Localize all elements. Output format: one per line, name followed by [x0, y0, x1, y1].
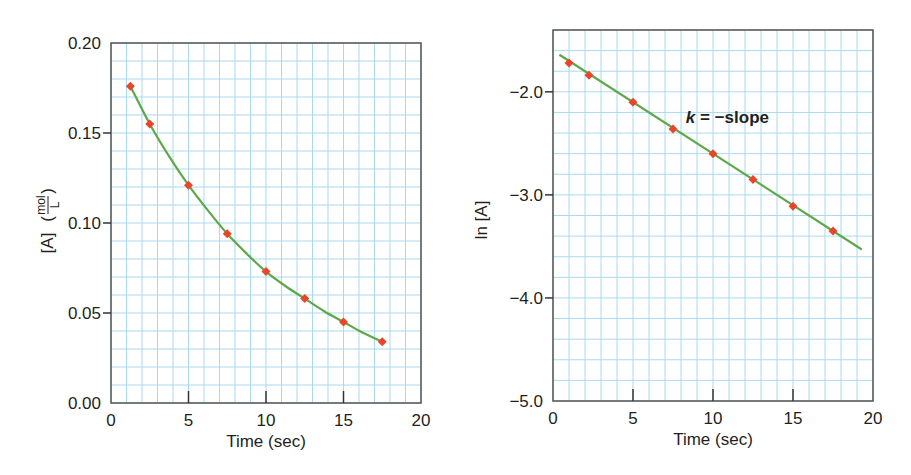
data-points: [126, 82, 387, 347]
data-point-marker: [378, 337, 387, 346]
x-axis-title: Time (sec): [673, 430, 753, 449]
annotations: k = −slope: [686, 108, 769, 127]
y-axis-title-paren-open: (: [38, 216, 57, 222]
x-tick-label: 10: [257, 411, 276, 430]
x-tick-label: 15: [784, 409, 803, 428]
y-axis-title-paren-close: ): [38, 188, 57, 194]
y-tick-label: −3.0: [509, 186, 543, 205]
x-tick-label: 5: [628, 409, 637, 428]
ln-concentration-vs-time-chart: 05101520 −5.0−4.0−3.0−2.0 k = −slope Tim…: [472, 30, 882, 449]
y-tick-label: −4.0: [509, 289, 543, 308]
x-tick-label: 20: [412, 411, 431, 430]
y-tick-label: −2.0: [509, 83, 543, 102]
figure-canvas: 05101520 0.000.050.100.150.20 Time (sec)…: [0, 0, 911, 475]
data-point-marker: [145, 120, 154, 129]
y-axis-ticks: −5.0−4.0−3.0−2.0: [509, 83, 553, 411]
y-tick-label: −5.0: [509, 392, 543, 411]
fit-curve: [130, 86, 382, 342]
y-axis-ticks: 0.000.050.100.150.20: [68, 34, 111, 413]
x-tick-label: 15: [334, 411, 353, 430]
y-tick-label: 0.20: [68, 34, 101, 53]
y-tick-label: 0.05: [68, 304, 101, 323]
concentration-vs-time-chart: 05101520 0.000.050.100.150.20 Time (sec)…: [34, 34, 430, 451]
y-tick-label: 0.15: [68, 124, 101, 143]
x-tick-label: 5: [184, 411, 193, 430]
x-axis-ticks: 05101520: [548, 389, 882, 428]
y-tick-label: 0.00: [68, 394, 101, 413]
x-axis-ticks: 05101520: [106, 391, 430, 430]
data-point-marker: [126, 82, 135, 91]
x-axis-title: Time (sec): [226, 432, 306, 451]
grid-lines: [553, 30, 873, 401]
grid-lines: [111, 43, 421, 403]
y-axis-title: [A] ( mol L ): [34, 188, 62, 253]
y-tick-label: 0.10: [68, 214, 101, 233]
data-point-marker: [339, 318, 348, 327]
y-axis-title-main: [A]: [38, 233, 57, 254]
x-tick-label: 10: [704, 409, 723, 428]
y-axis-title: ln [A]: [472, 201, 491, 240]
y-axis-unit-numerator: mol: [34, 195, 48, 214]
x-tick-label: 0: [106, 411, 115, 430]
rate-constant-annotation: k = −slope: [686, 108, 769, 127]
x-tick-label: 0: [548, 409, 557, 428]
fit-line-path: [130, 86, 382, 342]
y-axis-unit-denominator: L: [48, 201, 62, 208]
x-tick-label: 20: [864, 409, 883, 428]
